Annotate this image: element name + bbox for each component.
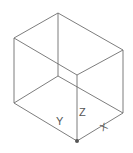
wireframe-box: Z Y X	[0, 0, 133, 153]
origin-marker-icon	[75, 139, 79, 143]
z-axis-label: Z	[79, 106, 86, 118]
y-axis-edge	[14, 103, 77, 141]
edge	[77, 50, 123, 75]
box-edges	[14, 13, 123, 141]
edge	[14, 76, 58, 103]
edge	[14, 13, 58, 38]
drawing-viewport[interactable]: Z Y X	[0, 0, 133, 153]
edge	[58, 13, 123, 50]
edge	[14, 38, 77, 75]
edge	[58, 76, 123, 113]
y-axis-label: Y	[56, 115, 64, 127]
